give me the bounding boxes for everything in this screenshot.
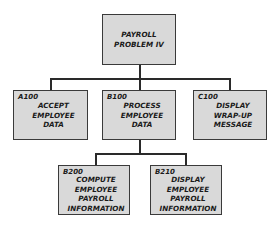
connector-b200	[95, 153, 97, 165]
module-label: PAYROLL PROBLEM IV	[103, 30, 175, 49]
connector-a100	[50, 78, 52, 90]
module-label: DISPLAY WRAP-UP MESSAGE	[194, 101, 266, 130]
module-b210: B210 DISPLAY EMPLOYEE PAYROLL INFORMATIO…	[150, 165, 222, 215]
module-c100: C100 DISPLAY WRAP-UP MESSAGE	[193, 90, 267, 140]
connector-root-down	[139, 65, 141, 78]
module-label: ACCEPT EMPLOYEE DATA	[14, 101, 87, 130]
connector-level3-bar	[95, 153, 186, 155]
module-b200: B200 COMPUTE EMPLOYEE PAYROLL INFORMATIO…	[58, 165, 130, 215]
module-label: DISPLAY EMPLOYEE PAYROLL INFORMATION	[151, 175, 221, 213]
module-label: PROCESS EMPLOYEE DATA	[103, 101, 175, 130]
connector-b100	[139, 78, 141, 90]
connector-b100-down	[139, 140, 141, 153]
module-root-payroll-problem-iv: PAYROLL PROBLEM IV	[102, 14, 176, 65]
module-b100: B100 PROCESS EMPLOYEE DATA	[102, 90, 176, 140]
connector-c100	[229, 78, 231, 90]
module-label: COMPUTE EMPLOYEE PAYROLL INFORMATION	[59, 175, 129, 213]
module-a100: A100 ACCEPT EMPLOYEE DATA	[13, 90, 88, 140]
connector-b210	[185, 153, 187, 165]
